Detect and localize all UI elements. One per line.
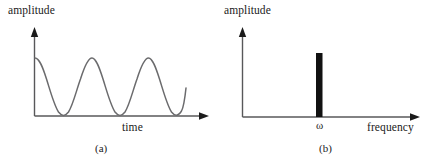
panel-a-plot [0, 0, 218, 165]
panel-a-caption: (a) [95, 142, 107, 154]
panel-a-x-axis-arrow-icon [199, 112, 209, 119]
panel-a-x-axis-label: time [122, 121, 143, 133]
signal-fourier-figure: amplitude time (a) amplitude ω [0, 0, 436, 165]
panel-b-x-axis-arrow-icon [410, 113, 420, 120]
panel-b-y-axis-arrow-icon [239, 27, 246, 37]
panel-b-plot [218, 0, 436, 165]
panel-a-sine-curve [35, 58, 186, 115]
panel-time-domain: amplitude time (a) [0, 0, 218, 165]
panel-frequency-domain: amplitude ω frequency (b) [218, 0, 436, 165]
panel-b-spectral-spike [316, 53, 323, 117]
panel-b-caption: (b) [319, 142, 332, 154]
panel-b-x-axis-label: frequency [367, 121, 414, 133]
panel-b-omega-tick-label: ω [316, 119, 323, 131]
panel-a-y-axis-arrow-icon [31, 27, 38, 37]
